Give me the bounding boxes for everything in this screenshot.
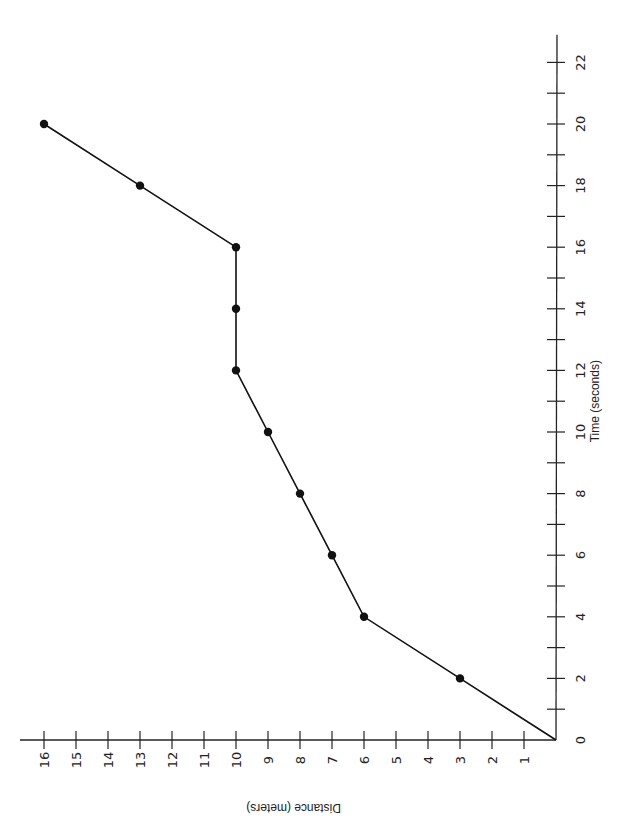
y-tick-label: 4 bbox=[421, 756, 436, 764]
y-tick-label: 7 bbox=[325, 756, 340, 764]
x-tick-label: 4 bbox=[573, 613, 588, 621]
data-point bbox=[136, 181, 144, 189]
x-tick-label: 6 bbox=[573, 551, 588, 559]
x-tick-label: 14 bbox=[573, 301, 588, 318]
y-tick-label: 2 bbox=[485, 756, 500, 764]
data-point bbox=[232, 366, 240, 374]
data-point bbox=[456, 674, 464, 682]
data-point bbox=[360, 613, 368, 621]
y-tick-label: 1 bbox=[517, 756, 532, 764]
x-axis-title: Time (seconds) bbox=[588, 360, 602, 442]
y-tick-label: 3 bbox=[453, 756, 468, 764]
x-tick-label: 0 bbox=[573, 736, 588, 744]
y-tick-label: 6 bbox=[357, 756, 372, 764]
y-tick-label: 10 bbox=[229, 752, 244, 769]
data-point bbox=[264, 428, 272, 436]
axes bbox=[20, 35, 557, 740]
x-tick-label: 12 bbox=[573, 362, 588, 379]
x-tick-label: 20 bbox=[573, 116, 588, 133]
x-tick-label: 10 bbox=[573, 424, 588, 441]
y-tick-label: 11 bbox=[197, 752, 212, 769]
tick-labels: 0246810121416182022123456789101112131415… bbox=[37, 54, 588, 768]
series-line bbox=[44, 124, 556, 740]
y-tick-label: 8 bbox=[293, 756, 308, 764]
y-tick-label: 15 bbox=[69, 752, 84, 769]
y-axis-title: Distance (meters) bbox=[246, 801, 341, 815]
x-tick-label: 16 bbox=[573, 239, 588, 256]
distance-time-chart: 0246810121416182022123456789101112131415… bbox=[0, 0, 635, 833]
y-tick-label: 9 bbox=[261, 756, 276, 764]
y-tick-label: 16 bbox=[37, 752, 52, 769]
y-tick-label: 14 bbox=[101, 752, 116, 769]
data-point bbox=[232, 305, 240, 313]
y-tick-label: 12 bbox=[165, 752, 180, 769]
data-point bbox=[232, 243, 240, 251]
x-tick-label: 2 bbox=[573, 674, 588, 682]
y-tick-label: 13 bbox=[133, 752, 148, 769]
x-tick-label: 22 bbox=[573, 54, 588, 71]
data-point bbox=[40, 120, 48, 128]
ticks bbox=[44, 62, 565, 749]
y-tick-label: 5 bbox=[389, 756, 404, 764]
data-point bbox=[296, 489, 304, 497]
x-tick-label: 8 bbox=[573, 489, 588, 497]
data-point bbox=[328, 551, 336, 559]
x-tick-label: 18 bbox=[573, 177, 588, 194]
x-axis-line bbox=[556, 35, 557, 740]
